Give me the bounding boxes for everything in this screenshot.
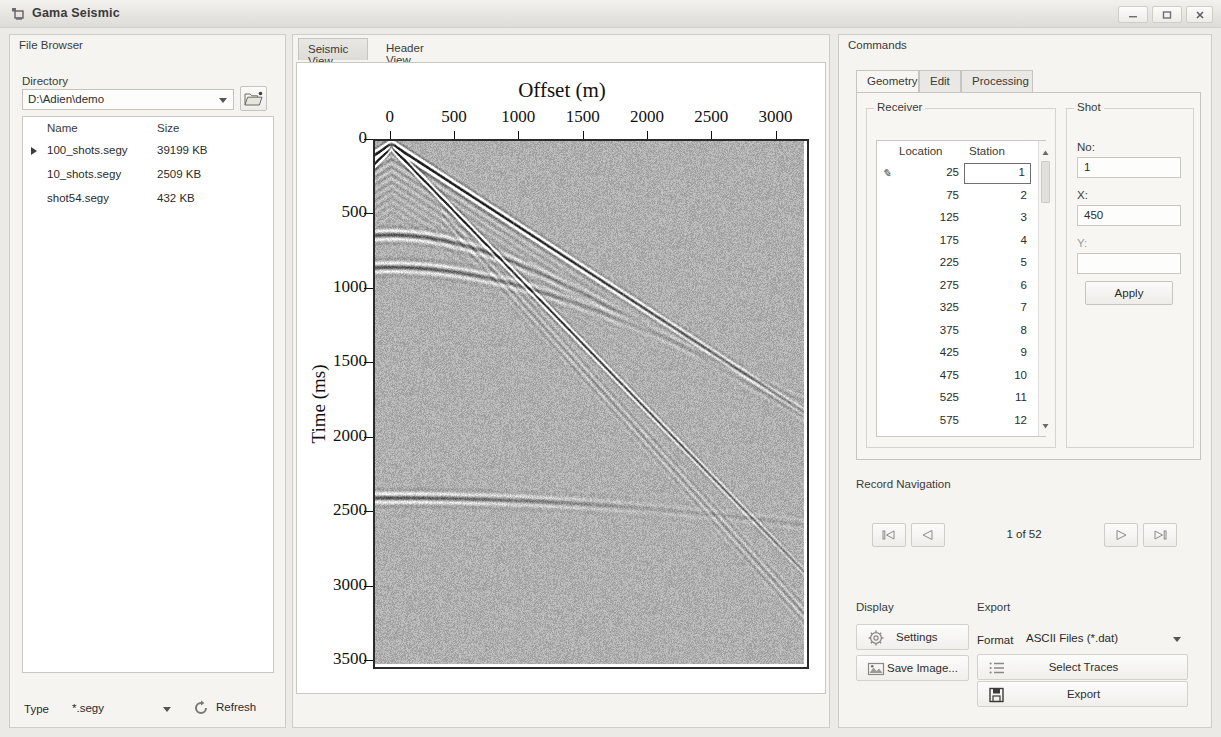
receiver-station: 12 xyxy=(969,414,1027,426)
shot-group-title: Shot xyxy=(1074,101,1104,113)
skip-last-icon[interactable] xyxy=(1143,523,1177,547)
file-size: 432 KB xyxy=(157,192,195,204)
folder-open-icon[interactable] xyxy=(240,86,267,111)
receiver-station: 2 xyxy=(969,189,1027,201)
receiver-location: 575 xyxy=(899,414,959,426)
receiver-row[interactable]: 1754 xyxy=(877,231,1045,253)
chart-ylabel: Time (ms) xyxy=(308,314,330,494)
receiver-row[interactable]: 4259 xyxy=(877,343,1045,365)
play-prev-icon[interactable] xyxy=(911,523,945,547)
file-name: shot54.segy xyxy=(47,192,109,204)
y-tick-mark xyxy=(364,660,373,661)
export-format-value: ASCII Files (*.dat) xyxy=(1026,632,1118,644)
y-tick-label: 0 xyxy=(305,128,367,148)
tab-processing-label: Processing xyxy=(972,75,1029,87)
y-tick-mark xyxy=(364,139,373,140)
export-format-combo[interactable]: ASCII Files (*.dat) xyxy=(1022,629,1188,650)
receiver-location: 525 xyxy=(899,391,959,403)
receiver-location: 325 xyxy=(899,301,959,313)
receiver-row[interactable]: 57512 xyxy=(877,411,1045,433)
scrollbar-thumb[interactable] xyxy=(1041,161,1050,203)
receiver-location: 475 xyxy=(899,369,959,381)
picture-icon xyxy=(867,660,885,678)
receiver-row[interactable]: 2756 xyxy=(877,276,1045,298)
receiver-row[interactable]: 3257 xyxy=(877,298,1045,320)
tab-processing[interactable]: Processing xyxy=(961,70,1033,93)
tab-edit[interactable]: Edit xyxy=(919,70,961,93)
shot-x-value: 450 xyxy=(1084,209,1103,221)
x-tick-label: 1500 xyxy=(553,107,613,127)
commands-title: Commands xyxy=(848,39,907,51)
select-traces-button[interactable]: Select Traces xyxy=(977,654,1188,680)
receiver-location: 225 xyxy=(899,256,959,268)
shot-no-field[interactable]: 1 xyxy=(1077,157,1181,178)
shot-no-label: No: xyxy=(1077,141,1095,153)
refresh-label: Refresh xyxy=(216,701,256,713)
view-tabs: Seismic View Header View xyxy=(293,38,829,61)
seismic-plot[interactable]: Offset (m) Time (ms) 0500100015002000250… xyxy=(296,62,826,694)
receiver-station-editor[interactable]: 1 xyxy=(964,163,1031,184)
receiver-table[interactable]: Location Station ✎2517521253175422552756… xyxy=(876,140,1046,437)
export-button[interactable]: Export xyxy=(977,681,1188,707)
receiver-row[interactable]: 752 xyxy=(877,186,1045,208)
scroll-up-icon[interactable] xyxy=(1042,146,1049,158)
receiver-location: 125 xyxy=(899,211,959,223)
save-image-button[interactable]: Save Image... xyxy=(856,655,969,681)
select-traces-label: Select Traces xyxy=(978,661,1189,673)
seismic-gather-image xyxy=(375,141,804,664)
save-image-label: Save Image... xyxy=(887,662,958,674)
y-tick-mark xyxy=(364,362,373,363)
window-title: Gama Seismic xyxy=(32,6,120,20)
y-tick-label: 1000 xyxy=(305,277,367,297)
export-label: Export xyxy=(978,688,1189,700)
shot-x-field[interactable]: 450 xyxy=(1077,205,1181,226)
file-list-row[interactable]: shot54.segy 432 KB xyxy=(23,189,273,211)
receiver-row[interactable]: 47510 xyxy=(877,366,1045,388)
x-tick-label: 2500 xyxy=(681,107,741,127)
shot-y-field[interactable] xyxy=(1077,253,1181,274)
tab-seismic-view[interactable]: Seismic View xyxy=(298,38,368,60)
minimize-icon[interactable] xyxy=(1118,6,1148,23)
receiver-group-title: Receiver xyxy=(874,101,925,113)
receiver-row[interactable]: 2255 xyxy=(877,253,1045,275)
play-next-icon[interactable] xyxy=(1104,523,1138,547)
tab-geometry[interactable]: Geometry xyxy=(856,70,919,93)
close-icon[interactable] xyxy=(1186,6,1213,23)
tab-edit-label: Edit xyxy=(930,75,950,87)
refresh-button[interactable]: Refresh xyxy=(185,697,275,720)
scroll-down-icon[interactable] xyxy=(1042,419,1049,431)
refresh-icon xyxy=(193,700,209,718)
receiver-row[interactable]: ✎251 xyxy=(877,163,1045,185)
export-format-label: Format xyxy=(977,634,1013,646)
y-tick-label: 2500 xyxy=(305,500,367,520)
receiver-row[interactable]: 3758 xyxy=(877,321,1045,343)
receiver-row[interactable]: 1253 xyxy=(877,208,1045,230)
y-tick-mark xyxy=(364,586,373,587)
tab-header-view[interactable]: Header View xyxy=(377,38,453,60)
chevron-down-icon xyxy=(1173,637,1181,642)
receiver-station: 3 xyxy=(969,211,1027,223)
apply-button[interactable]: Apply xyxy=(1085,281,1173,305)
title-bar: Gama Seismic xyxy=(0,0,1221,28)
settings-button[interactable]: Settings xyxy=(856,624,969,650)
file-name: 100_shots.segy xyxy=(47,144,128,156)
receiver-station-value: 1 xyxy=(1019,166,1025,178)
file-type-combo[interactable]: *.segy xyxy=(68,699,175,719)
skip-first-icon[interactable] xyxy=(872,523,906,547)
file-list-row[interactable]: 100_shots.segy 39199 KB xyxy=(23,141,273,163)
file-list-row[interactable]: 10_shots.segy 2509 KB xyxy=(23,165,273,187)
y-tick-mark xyxy=(364,213,373,214)
file-list[interactable]: Name Size 100_shots.segy 39199 KB 10_sho… xyxy=(22,116,274,673)
directory-combo[interactable]: D:\Adien\demo xyxy=(22,89,234,110)
x-tick-label: 0 xyxy=(360,107,420,127)
row-selector-icon xyxy=(31,147,37,155)
y-tick-label: 3500 xyxy=(305,649,367,669)
file-browser-title: File Browser xyxy=(19,39,83,51)
receiver-table-scrollbar[interactable] xyxy=(1038,141,1051,436)
record-navigation-title: Record Navigation xyxy=(856,478,951,490)
maximize-icon[interactable] xyxy=(1152,6,1182,23)
receiver-location: 175 xyxy=(899,234,959,246)
display-section-title: Display xyxy=(856,601,894,613)
receiver-location: 375 xyxy=(899,324,959,336)
receiver-row[interactable]: 52511 xyxy=(877,388,1045,410)
